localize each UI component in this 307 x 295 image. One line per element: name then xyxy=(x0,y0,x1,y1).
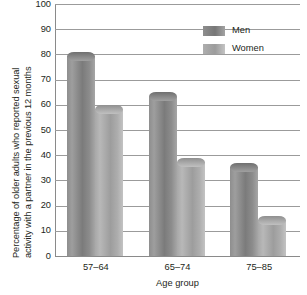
bar-men-75–85 xyxy=(230,163,258,256)
bar-body xyxy=(230,167,258,256)
bar-top-ellipse xyxy=(95,105,123,114)
bar-body xyxy=(177,162,205,256)
gridline xyxy=(55,4,300,5)
bar-men-57–64 xyxy=(67,52,95,256)
y-axis-tick-label: 50 xyxy=(26,126,51,135)
bar-top-ellipse xyxy=(258,216,286,225)
bar-women-57–64 xyxy=(95,105,123,256)
y-axis-tick-label: 20 xyxy=(26,201,51,210)
legend-item-men: Men xyxy=(203,23,299,38)
bar-body xyxy=(67,56,95,256)
legend-swatch-women-icon xyxy=(203,44,225,54)
bar-top-ellipse xyxy=(67,52,95,61)
legend-item-women: Women xyxy=(203,41,299,56)
bar-top-ellipse xyxy=(230,163,258,172)
bar-chart: Percentage of older adults who reported … xyxy=(0,0,307,295)
x-axis-line xyxy=(55,256,300,257)
x-axis-tick-label: 57–64 xyxy=(55,262,137,272)
bar-women-75–85 xyxy=(258,216,286,256)
y-axis-tick-label: 40 xyxy=(26,151,51,160)
bar-women-65–74 xyxy=(177,158,205,256)
y-axis-tick-label: 90 xyxy=(26,25,51,34)
x-axis-tick-label: 65–74 xyxy=(137,262,219,272)
bar-top-ellipse xyxy=(177,158,205,167)
x-axis-title: Age group xyxy=(55,278,300,288)
bar-body xyxy=(149,97,177,256)
legend-swatch-men-icon xyxy=(203,26,225,36)
y-axis-tick-label: 100 xyxy=(26,0,51,9)
y-axis-tick-label: 10 xyxy=(26,226,51,235)
y-axis-tick-label: 0 xyxy=(26,252,51,261)
y-axis-title-line-1: Percentage of older adults who reported … xyxy=(11,68,21,258)
y-axis-tick-label: 70 xyxy=(26,75,51,84)
y-axis-tick-label: 60 xyxy=(26,100,51,109)
y-axis-tick-label: 80 xyxy=(26,50,51,59)
legend-label-men: Men xyxy=(232,26,250,35)
x-axis-tick-label: 75–85 xyxy=(218,262,300,272)
y-axis-tick-labels: 0102030405060708090100 xyxy=(26,0,51,262)
bar-body xyxy=(95,109,123,256)
bar-body xyxy=(258,220,286,256)
y-axis-tick-label: 30 xyxy=(26,176,51,185)
legend: Men Women xyxy=(203,23,299,59)
bar-top-ellipse xyxy=(149,92,177,101)
bar-men-65–74 xyxy=(149,92,177,256)
legend-label-women: Women xyxy=(232,44,264,53)
